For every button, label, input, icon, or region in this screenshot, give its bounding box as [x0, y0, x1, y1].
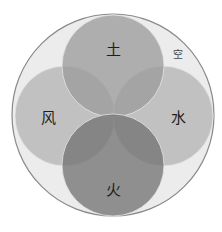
fire-label: 火: [106, 181, 121, 199]
wind-label: 风: [41, 109, 56, 127]
elements-diagram: 土 空 风 水 火: [0, 0, 222, 232]
fire-circle: [62, 114, 164, 216]
earth-label: 土: [106, 41, 121, 59]
earth-circle: [62, 15, 164, 117]
space-label: 空: [173, 48, 183, 60]
water-label: 水: [171, 109, 186, 127]
